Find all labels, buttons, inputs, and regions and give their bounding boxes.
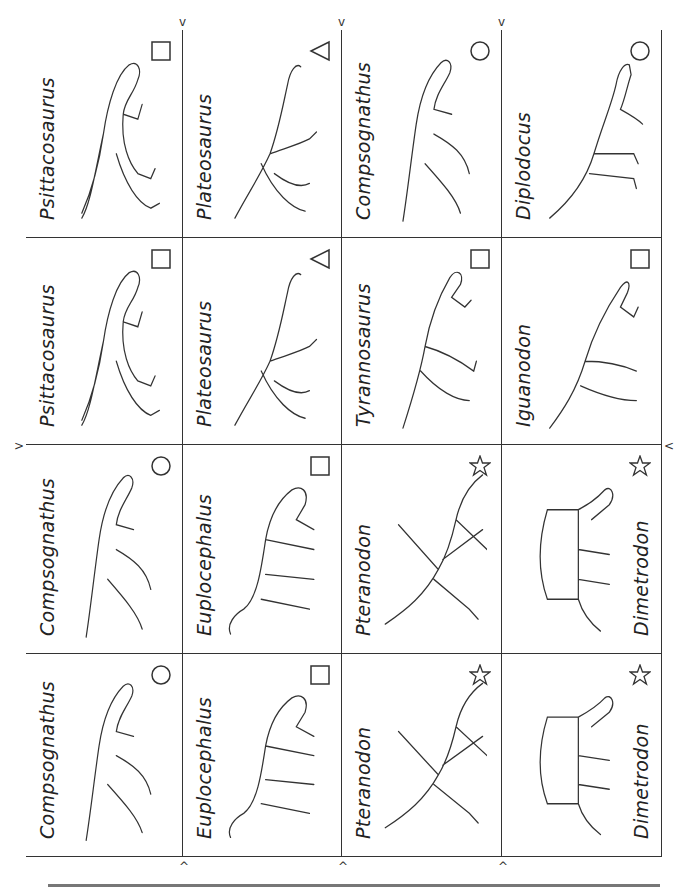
dino-card: Psittacosaurus: [26, 238, 183, 445]
dinosaur-illustration-icon: [56, 669, 168, 851]
cut-marker-bottom: ^: [338, 861, 348, 873]
dino-card: Pteranodon: [342, 445, 502, 654]
star-icon: [629, 664, 651, 686]
dinosaur-illustration-icon: [372, 669, 487, 851]
dinosaur-illustration-icon: [372, 460, 487, 648]
cut-marker-bottom: ^: [498, 861, 508, 873]
dino-card: Pteranodon: [342, 654, 502, 857]
dino-name: Psittacosaurus: [36, 284, 58, 427]
dinosaur-illustration-icon: [56, 460, 168, 648]
dinosaur-illustration-icon: [56, 45, 168, 232]
dino-name: Compsognathus: [36, 681, 58, 839]
dino-card: Euplocephalus: [183, 654, 342, 857]
star-icon: [629, 455, 651, 477]
dino-name: Pteranodon: [352, 524, 374, 636]
dinosaur-illustration-icon: [532, 45, 647, 232]
dino-name: Euplocephalus: [193, 697, 215, 839]
dino-card: Plateosaurus: [183, 238, 342, 445]
dinosaur-illustration-icon: [532, 253, 647, 439]
dino-name: Compsognathus: [36, 478, 58, 636]
dino-name: Psittacosaurus: [36, 77, 58, 220]
dino-name: Tyrannosaurus: [352, 283, 374, 427]
dino-name: Pteranodon: [352, 727, 374, 839]
cut-marker-top: v: [498, 16, 505, 28]
dino-name: Dimetrodon: [630, 520, 652, 636]
dino-card: Dimetrodon: [502, 654, 662, 857]
cut-marker-top: v: [179, 16, 186, 28]
dinosaur-illustration-icon: [213, 669, 327, 851]
dino-card: Compsognathus: [26, 445, 183, 654]
dino-card: Tyrannosaurus: [342, 238, 502, 445]
dino-card: Plateosaurus: [183, 30, 342, 238]
dinosaur-illustration-icon: [512, 460, 627, 648]
dinosaur-illustration-icon: [213, 45, 327, 232]
dino-name: Plateosaurus: [193, 94, 215, 220]
dino-card: Psittacosaurus: [26, 30, 183, 238]
cut-marker-left: >: [14, 440, 24, 452]
dino-name: Diplodocus: [512, 112, 534, 220]
dino-card: Dimetrodon: [502, 445, 662, 654]
dinosaur-illustration-icon: [372, 253, 487, 439]
dinosaur-illustration-icon: [56, 253, 168, 439]
dino-name: Iguanodon: [512, 324, 534, 427]
dinosaur-illustration-icon: [372, 45, 487, 232]
dinosaur-illustration-icon: [213, 253, 327, 439]
dinosaur-illustration-icon: [512, 669, 627, 851]
dino-name: Compsognathus: [352, 62, 374, 220]
dino-card: Iguanodon: [502, 238, 662, 445]
dino-card: Compsognathus: [26, 654, 183, 857]
dino-card: Euplocephalus: [183, 445, 342, 654]
cut-marker-right: <: [664, 440, 674, 452]
dino-card: Compsognathus: [342, 30, 502, 238]
dino-name: Plateosaurus: [193, 301, 215, 427]
dino-card: Diplodocus: [502, 30, 662, 238]
cut-marker-top: v: [338, 16, 345, 28]
cut-marker-bottom: ^: [179, 861, 189, 873]
dino-name: Euplocephalus: [193, 494, 215, 636]
dino-name: Dimetrodon: [630, 723, 652, 839]
dinosaur-illustration-icon: [213, 460, 327, 648]
